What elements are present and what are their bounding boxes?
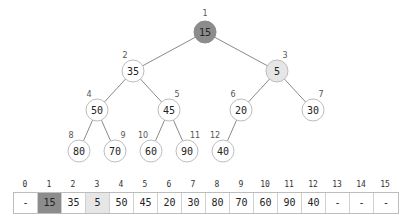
array-index-label: 1 [37,178,61,192]
node-index-label: 6 [230,90,235,99]
array-index-label: 3 [85,178,109,192]
tree-node: 352 [122,51,144,82]
array-index-label: 7 [181,178,205,192]
node-index-label: 5 [174,90,179,99]
array-cell: - [374,193,398,213]
array-cell: 50 [110,193,134,213]
node-value: 80 [73,146,85,157]
tree-node: 808 [68,131,90,162]
tree-edge [205,32,277,71]
node-value: 15 [199,27,211,38]
heap-array: 0123456789101112131415 -1535550452030807… [13,178,399,214]
array-index-label: 4 [109,178,133,192]
node-index-label: 2 [122,51,127,60]
node-value: 50 [91,105,103,116]
node-value: 5 [274,66,280,77]
array-cell: 40 [302,193,326,213]
array-cell: 20 [158,193,182,213]
array-index-label: 5 [133,178,157,192]
tree-node: 4012 [210,131,234,162]
tree-node: 151 [194,9,216,43]
array-index-label: 8 [205,178,229,192]
array-cell: 80 [206,193,230,213]
node-index-label: 7 [318,90,323,99]
array-cell: - [14,193,38,213]
array-index-label: 13 [325,178,349,192]
node-value: 90 [181,146,193,157]
array-cell: 70 [230,193,254,213]
node-value: 30 [307,105,319,116]
array-index-label: 10 [253,178,277,192]
tree-node: 6010 [138,131,162,162]
array-cell: 90 [278,193,302,213]
tree-node: 504 [86,90,108,121]
tree-nodes: 15135253504455206307808709601090114012 [68,9,324,162]
array-value-row: -15355504520308070609040--- [13,192,399,214]
array-cell: 60 [254,193,278,213]
array-cell: 45 [134,193,158,213]
node-index-label: 9 [120,131,125,140]
node-index-label: 8 [68,131,73,140]
node-index-label: 10 [138,131,148,140]
array-index-label: 0 [13,178,37,192]
array-cell: 35 [62,193,86,213]
tree-node: 307 [302,90,324,121]
node-index-label: 1 [202,9,207,18]
node-value: 70 [109,146,121,157]
array-index-label: 9 [229,178,253,192]
tree-node: 9011 [176,131,200,162]
node-value: 60 [145,146,157,157]
node-index-label: 11 [190,131,200,140]
array-cell: 30 [182,193,206,213]
array-cell: 15 [38,193,62,213]
node-value: 45 [163,105,175,116]
tree-node: 206 [230,90,252,121]
node-value: 40 [217,146,229,157]
array-index-label: 14 [349,178,373,192]
array-index-label: 12 [301,178,325,192]
node-index-label: 12 [210,131,220,140]
array-cell: - [350,193,374,213]
tree-node: 53 [266,51,288,82]
tree-node: 455 [158,90,180,121]
node-value: 35 [127,66,139,77]
node-value: 20 [235,105,247,116]
heap-tree: 15135253504455206307808709601090114012 [0,0,401,175]
array-index-label: 15 [373,178,397,192]
array-index-row: 0123456789101112131415 [13,178,399,192]
tree-node: 709 [104,131,126,162]
array-cell: 5 [86,193,110,213]
array-index-label: 6 [157,178,181,192]
node-index-label: 3 [282,51,287,60]
array-cell: - [326,193,350,213]
node-index-label: 4 [86,90,91,99]
array-index-label: 11 [277,178,301,192]
array-index-label: 2 [61,178,85,192]
tree-edge [133,32,205,71]
